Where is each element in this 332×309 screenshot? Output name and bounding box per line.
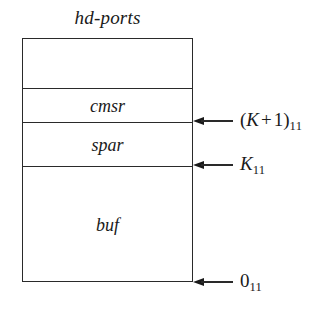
- segment-spar: spar: [23, 122, 192, 166]
- segment-label-spar: spar: [91, 135, 123, 155]
- annotation-label-zero: 011: [233, 271, 262, 293]
- plus-operator: +: [259, 109, 274, 130]
- annotation-zero: 011: [193, 271, 262, 293]
- subscript-11: 11: [250, 280, 263, 294]
- segment-unlabeled-top: [23, 39, 192, 88]
- operand-one: 1: [274, 109, 284, 130]
- memory-layout-diagram: hd-ports cmsr spar buf (K+1)11: [0, 0, 332, 309]
- variable-k: K: [246, 109, 259, 130]
- segment-label-cmsr: cmsr: [90, 96, 125, 116]
- left-arrow-icon: [193, 160, 233, 170]
- annotation-k-plus-one: (K+1)11: [193, 110, 302, 132]
- variable-k: K: [240, 153, 253, 174]
- subscript-11: 11: [290, 119, 303, 133]
- diagram-title: hd-ports: [22, 6, 193, 30]
- value-zero: 0: [240, 270, 250, 291]
- segment-label-buf: buf: [96, 215, 119, 235]
- annotation-k: K11: [193, 154, 265, 176]
- close-paren: ): [283, 109, 289, 130]
- segment-buf: buf: [23, 166, 192, 283]
- segment-cmsr: cmsr: [23, 88, 192, 122]
- left-arrow-icon: [193, 116, 233, 126]
- annotation-label-k: K11: [233, 154, 265, 176]
- memory-box: cmsr spar buf: [22, 38, 193, 282]
- subscript-11: 11: [253, 163, 266, 177]
- left-arrow-icon: [193, 277, 233, 287]
- annotation-label-k-plus-one: (K+1)11: [233, 110, 302, 132]
